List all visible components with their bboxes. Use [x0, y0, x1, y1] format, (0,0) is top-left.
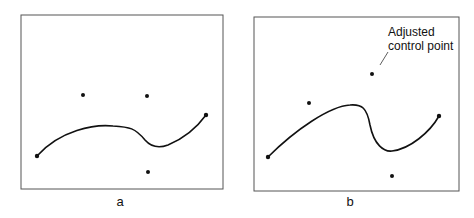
control-point	[146, 170, 150, 174]
control-point	[81, 93, 85, 97]
bezier-figure: a Adjusted control point b	[0, 0, 474, 218]
annotation-leader-line	[380, 52, 388, 65]
endpoint	[204, 113, 208, 117]
panel-b-label: b	[346, 194, 353, 209]
panel-b: Adjusted control point b	[254, 17, 459, 209]
annotation-line-1: Adjusted	[388, 25, 435, 39]
endpoint	[266, 155, 270, 159]
annotation-line-2: control point	[388, 39, 454, 53]
panel-a: a	[21, 15, 223, 209]
panel-a-frame	[21, 15, 223, 189]
endpoint	[35, 154, 39, 158]
panel-b-curve	[268, 105, 439, 157]
control-point	[145, 94, 149, 98]
panel-a-curve	[37, 115, 206, 156]
panel-a-label: a	[116, 194, 124, 209]
adjusted-control-point	[370, 72, 374, 76]
control-point	[390, 174, 394, 178]
endpoint	[437, 114, 441, 118]
control-point	[307, 101, 311, 105]
